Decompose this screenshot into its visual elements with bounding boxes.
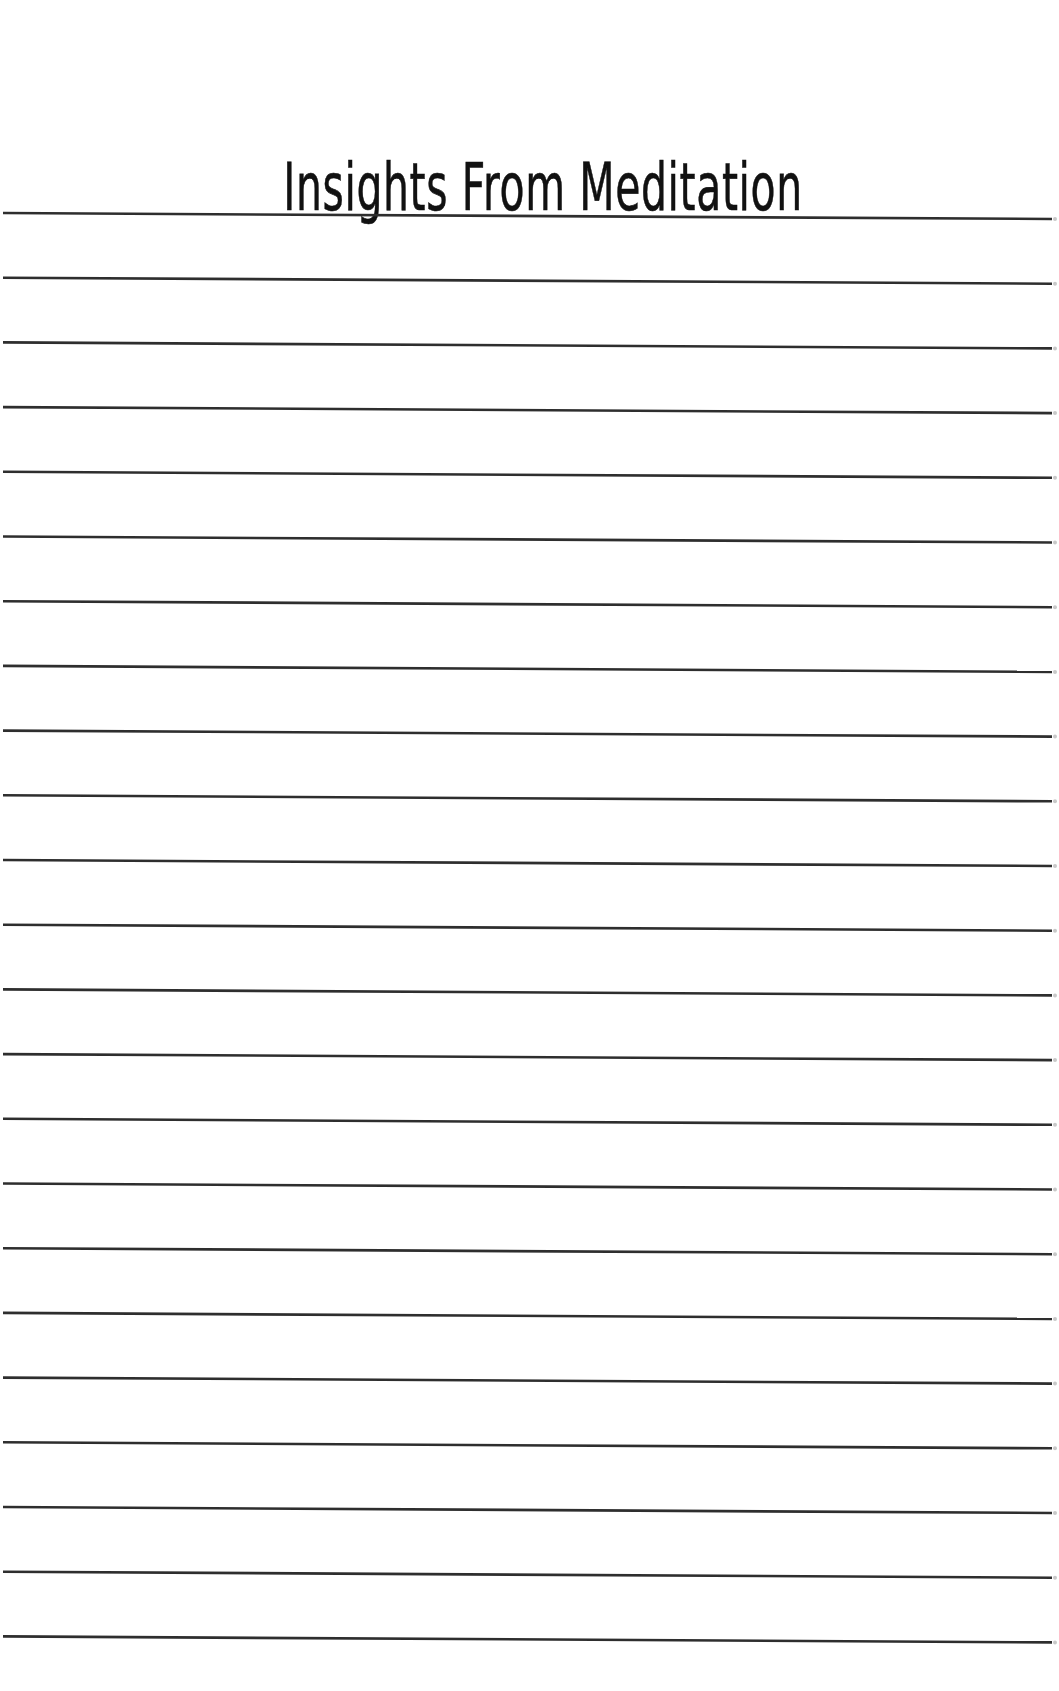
edge-tick (1053, 541, 1057, 545)
edge-tick (1053, 799, 1057, 803)
edge-tick (1053, 1188, 1057, 1192)
ruled-line (3, 1119, 1052, 1125)
ruled-line (3, 601, 1052, 607)
edge-tick (1053, 1511, 1057, 1515)
ruled-line (3, 472, 1052, 478)
edge-tick (1053, 670, 1057, 674)
ruled-line (3, 1572, 1052, 1578)
edge-tick (1053, 476, 1057, 480)
ruled-line (3, 925, 1052, 931)
ruled-line (3, 795, 1052, 801)
edge-tick (1053, 1640, 1057, 1644)
ruled-line (3, 1442, 1052, 1448)
edge-tick (1053, 282, 1057, 286)
ruled-line (3, 731, 1052, 737)
edge-tick (1053, 1446, 1057, 1450)
ruled-line (3, 1636, 1052, 1642)
ruled-line (3, 1184, 1052, 1190)
edge-tick (1053, 411, 1057, 415)
edge-tick (1053, 1382, 1057, 1386)
notebook-page: Insights From Meditation (0, 0, 1059, 1691)
edge-tick (1053, 735, 1057, 739)
edge-tick (1053, 993, 1057, 997)
ruled-line (3, 537, 1052, 543)
ruled-line (3, 860, 1052, 866)
ruled-line (3, 989, 1052, 995)
edge-tick (1053, 1252, 1057, 1256)
ruled-line (3, 1378, 1052, 1384)
edge-tick (1053, 1123, 1057, 1127)
edge-tick (1053, 1576, 1057, 1580)
edge-tick (1053, 1317, 1057, 1321)
ruled-line (3, 1313, 1052, 1319)
edge-tick (1053, 929, 1057, 933)
edge-tick (1053, 1058, 1057, 1062)
ruled-line (3, 666, 1052, 672)
ruled-line (3, 1248, 1052, 1254)
ruled-line (3, 1507, 1052, 1513)
edge-tick (1053, 605, 1057, 609)
edge-tick (1053, 346, 1057, 350)
ruled-lines-graphic (0, 0, 1059, 1691)
ruled-line (3, 278, 1052, 284)
edge-tick (1053, 217, 1057, 221)
ruled-lines (0, 0, 1059, 1691)
ruled-line (3, 1054, 1052, 1060)
ruled-line (3, 213, 1052, 219)
ruled-line (3, 342, 1052, 348)
edge-tick (1053, 864, 1057, 868)
ruled-line (3, 407, 1052, 413)
